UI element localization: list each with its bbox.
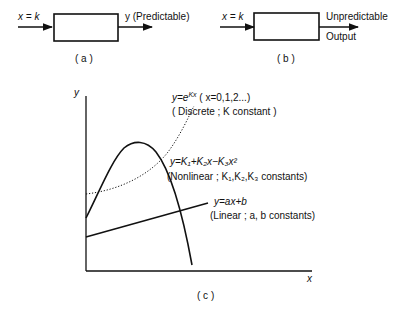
- input-label: x = k: [17, 11, 40, 22]
- exponential-note: ( Discrete ; K constant ): [172, 106, 276, 117]
- panel-c: y x y=eKx ( x=0,1,2...) ( Discrete ; K c…: [73, 87, 315, 301]
- quadratic-equation: y=K₁+K₂x−K₃x²: [169, 156, 237, 167]
- linear-note: (Linear ; a, b constants): [210, 210, 315, 221]
- quadratic-note: (Nonlinear ; K₁,K₂,K₃ constants): [167, 171, 307, 182]
- output-label-line2: Output: [326, 31, 356, 42]
- y-axis-label: y: [73, 87, 80, 98]
- panel-a: x = k y (Predictable) ( a ): [17, 11, 189, 64]
- system-box: [54, 14, 118, 41]
- system-box: [254, 13, 319, 40]
- caption-c: ( c ): [197, 290, 214, 301]
- input-label: x = k: [221, 11, 244, 22]
- output-label: y (Predictable): [125, 11, 189, 22]
- linear-line: [86, 203, 208, 237]
- caption-a: ( a ): [75, 53, 93, 64]
- output-label-line1: Unpredictable: [326, 11, 388, 22]
- caption-b: ( b ): [277, 53, 295, 64]
- x-axis-label: x: [306, 273, 313, 284]
- diagram-canvas: x = k y (Predictable) ( a ) x = k Unpred…: [0, 0, 395, 311]
- panel-b: x = k Unpredictable Output ( b ): [220, 11, 388, 64]
- linear-equation: y=ax+b: [213, 196, 247, 207]
- exponential-equation: y=eKx ( x=0,1,2...): [171, 91, 250, 103]
